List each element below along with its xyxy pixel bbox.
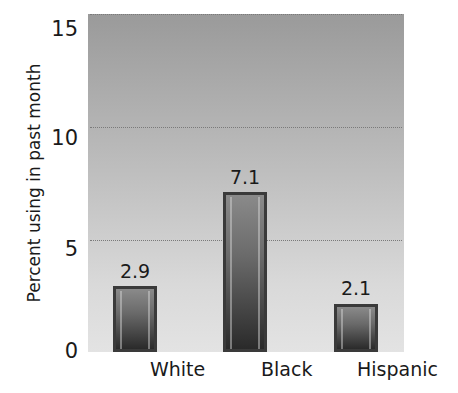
bar-white (113, 286, 157, 352)
y-tick-15: 15 (38, 18, 78, 40)
bar-hispanic (334, 304, 378, 352)
data-label-hispanic: 2.1 (326, 278, 386, 298)
x-category-black: Black (261, 358, 312, 380)
y-tick-10: 10 (38, 127, 78, 149)
data-label-white: 2.9 (105, 261, 165, 281)
x-category-white: White (150, 358, 205, 380)
y-tick-0: 0 (38, 340, 78, 362)
bar-black (223, 192, 267, 352)
gridline-10 (90, 127, 402, 128)
gridline-15 (90, 14, 402, 15)
y-tick-5: 5 (38, 238, 78, 260)
y-axis-label: Percent using in past month (24, 23, 44, 343)
data-label-black: 7.1 (215, 167, 275, 187)
plot-area: 2.9 7.1 2.1 (88, 14, 404, 352)
x-category-hispanic: Hispanic (357, 358, 438, 380)
